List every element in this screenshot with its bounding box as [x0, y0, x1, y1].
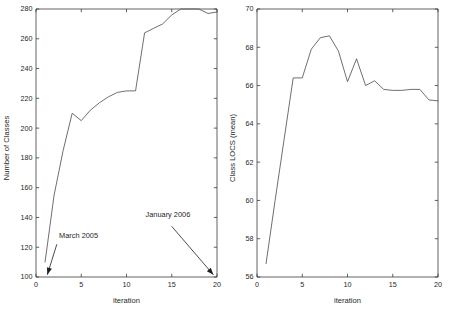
x-tick-label: 5	[79, 280, 83, 289]
left-x-axis-label: iteration	[113, 296, 140, 305]
x-tick-label: 20	[213, 280, 221, 289]
y-tick-label: 280	[21, 4, 33, 13]
x-tick-label: 15	[389, 280, 397, 289]
y-tick-label: 68	[246, 43, 254, 52]
figure-container: 100120140160180200220240260280 05101520 …	[0, 0, 452, 317]
x-tick-label: 20	[434, 280, 442, 289]
chart-annotation-label: March 2005	[59, 231, 98, 240]
chart-annotation-label: January 2006	[146, 210, 191, 219]
x-tick-label: 0	[255, 280, 259, 289]
y-tick-label: 220	[21, 94, 33, 103]
y-tick-label: 160	[21, 183, 33, 192]
left-y-axis-label: Number of Classes	[2, 116, 11, 181]
right-series-path	[266, 36, 438, 264]
y-tick-label: 100	[21, 272, 33, 281]
left-annotations: March 2005January 2006	[47, 210, 213, 274]
right-tick-marks	[257, 9, 438, 277]
x-tick-label: 0	[34, 280, 38, 289]
left-y-tick-labels: 100120140160180200220240260280	[21, 4, 33, 281]
annotation-arrowhead	[47, 267, 52, 274]
annotation-arrow-line	[172, 226, 214, 274]
y-tick-label: 120	[21, 243, 33, 252]
y-tick-label: 70	[246, 4, 254, 13]
y-tick-label: 62	[246, 158, 254, 167]
chart-panel-right: 5658606264666870 05101520 iteration Clas…	[226, 0, 452, 317]
left-chart-svg: 100120140160180200220240260280 05101520 …	[0, 0, 226, 317]
y-tick-label: 140	[21, 213, 33, 222]
left-x-tick-labels: 05101520	[34, 280, 221, 289]
x-tick-label: 10	[344, 280, 352, 289]
right-axis-box	[257, 9, 438, 277]
left-series-path	[45, 9, 217, 262]
y-tick-label: 180	[21, 153, 33, 162]
right-chart-svg: 5658606264666870 05101520 iteration Clas…	[226, 0, 452, 317]
right-y-axis-label: Class LOCS (mean)	[228, 114, 237, 182]
y-tick-label: 200	[21, 124, 33, 133]
y-tick-label: 56	[246, 272, 254, 281]
right-y-tick-labels: 5658606264666870	[246, 4, 254, 281]
right-x-axis-label: iteration	[334, 296, 361, 305]
x-tick-label: 10	[123, 280, 131, 289]
y-tick-label: 66	[246, 81, 254, 90]
x-tick-label: 15	[168, 280, 176, 289]
right-x-tick-labels: 05101520	[255, 280, 442, 289]
y-tick-label: 240	[21, 64, 33, 73]
y-tick-label: 260	[21, 34, 33, 43]
chart-panel-left: 100120140160180200220240260280 05101520 …	[0, 0, 226, 317]
y-tick-label: 64	[246, 119, 254, 128]
x-tick-label: 5	[300, 280, 304, 289]
y-tick-label: 58	[246, 234, 254, 243]
y-tick-label: 60	[246, 196, 254, 205]
